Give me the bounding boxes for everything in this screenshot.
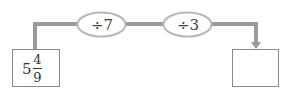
fraction-denominator: 9: [33, 70, 41, 85]
operation-label-2: ÷3: [166, 15, 210, 35]
connector-end: [212, 24, 256, 43]
result-answer-box[interactable]: [232, 49, 279, 87]
mixed-number-fraction: 4 9: [33, 52, 42, 85]
operation-label-1: ÷7: [80, 15, 124, 35]
mixed-number-whole: 5: [22, 60, 32, 78]
connector-start: [35, 24, 77, 49]
fraction-bar: [33, 68, 42, 69]
arrow-down-icon: [251, 42, 261, 49]
fraction-numerator: 4: [33, 52, 41, 67]
start-value-box: 5 4 9: [12, 49, 60, 87]
